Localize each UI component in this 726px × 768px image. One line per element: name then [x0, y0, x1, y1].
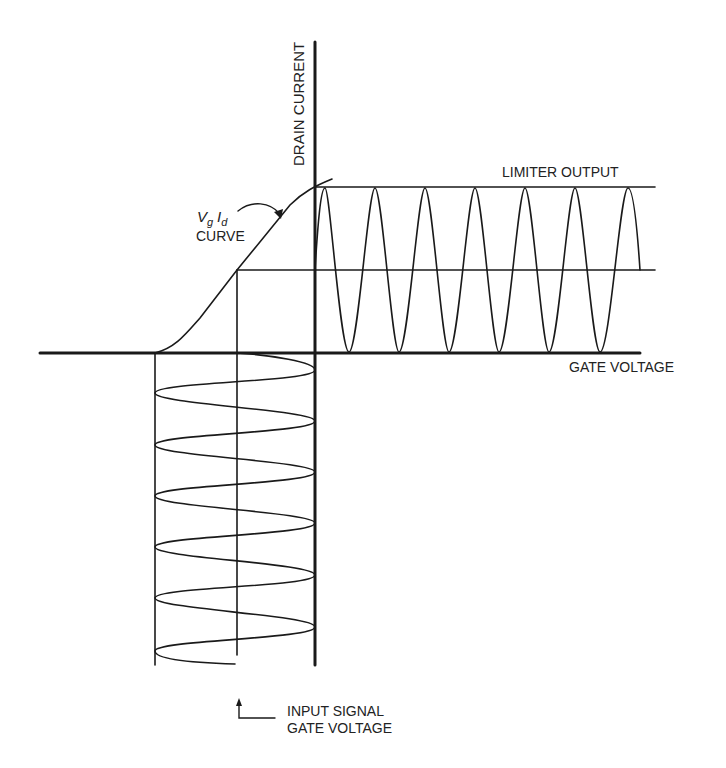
vg-id-curve [155, 179, 332, 353]
curve-symbol-label: Vg Id [197, 209, 227, 230]
vg-symbol: V [197, 208, 207, 225]
curve-label-arrowhead [274, 209, 283, 219]
vg-subscript: g [207, 216, 213, 228]
id-subscript: d [221, 216, 227, 228]
input-pointer-line [239, 703, 275, 718]
limiter-diagram [0, 0, 726, 768]
input-pointer-arrowhead [236, 698, 242, 706]
gate-voltage-label: GATE VOLTAGE [569, 360, 674, 375]
input-signal-waveform [155, 353, 315, 664]
curve-label-arrow [238, 204, 280, 214]
input-signal-label: INPUT SIGNAL [287, 704, 384, 719]
drain-current-label: DRAIN CURRENT [291, 42, 306, 166]
curve-word-label: CURVE [196, 229, 245, 244]
limiter-output-label: LIMITER OUTPUT [502, 165, 619, 180]
input-gate-voltage-label: GATE VOLTAGE [287, 721, 392, 736]
